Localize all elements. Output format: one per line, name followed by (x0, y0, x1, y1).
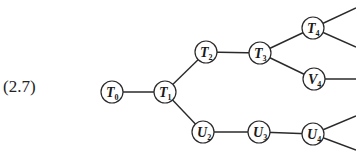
node-T4: T4 (302, 17, 324, 39)
node-U2: U2 (192, 121, 214, 143)
node-T1: T1 (154, 81, 176, 103)
node-U3: U3 (248, 121, 270, 143)
node-T2: T2 (195, 41, 217, 63)
nodes-layer: T0T1T2T3T4V4U2U3U4 (101, 17, 325, 145)
node-V4: V4 (303, 68, 325, 90)
node-T3: T3 (249, 42, 271, 64)
node-U4: U4 (302, 123, 324, 145)
tree-diagram: T0T1T2T3T4V4U2U3U4 (0, 0, 356, 156)
node-T0: T0 (101, 81, 123, 103)
